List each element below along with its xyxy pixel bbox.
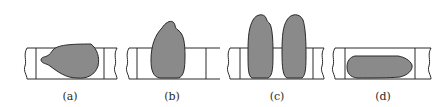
bead-c-left: [248, 15, 273, 78]
panel-a-label: (a): [62, 90, 77, 103]
strip-c: [227, 48, 324, 79]
panel-a: [24, 44, 117, 79]
bead-c-right: [282, 15, 306, 78]
bead-d: [347, 56, 412, 78]
panel-d-label: (d): [375, 90, 391, 103]
bead-a: [41, 44, 99, 78]
panel-d: [332, 48, 431, 79]
bead-b: [151, 21, 185, 78]
panel-b-label: (b): [164, 90, 180, 103]
panel-c: [227, 15, 324, 79]
panel-c-label: (c): [270, 90, 285, 103]
panel-b: [126, 21, 220, 79]
